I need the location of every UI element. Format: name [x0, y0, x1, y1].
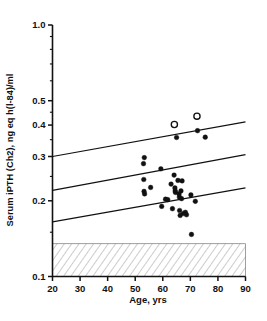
x-axis-title: Age, yrs: [129, 294, 167, 305]
x-tick-label: 60: [157, 283, 168, 294]
y-tick-label: 1.0: [32, 19, 45, 30]
x-tick-label: 50: [130, 283, 141, 294]
y-tick-label: 0.3: [32, 151, 45, 162]
band-rect: [53, 244, 246, 277]
data-point: [159, 204, 164, 209]
data-point: [165, 197, 170, 202]
data-point: [179, 196, 184, 201]
data-point: [169, 182, 174, 187]
data-point: [142, 192, 147, 197]
regression-line: [53, 155, 246, 191]
y-tick-label: 0.2: [32, 195, 45, 206]
x-axis-ticks: 2030405060708090: [47, 277, 251, 294]
data-point: [174, 135, 179, 140]
data-points: [141, 113, 207, 237]
scatter-plot-figure: 1.00.50.40.30.20.1 2030405060708090 Age,…: [0, 0, 267, 321]
x-tick-label: 30: [75, 283, 86, 294]
data-point: [184, 212, 189, 217]
data-point: [141, 161, 146, 166]
normal-range-band: [53, 244, 246, 277]
x-tick-label: 90: [240, 283, 251, 294]
data-point: [170, 206, 175, 211]
data-point: [179, 189, 184, 194]
x-tick-label: 70: [185, 283, 196, 294]
x-tick-label: 80: [213, 283, 224, 294]
data-point: [180, 179, 185, 184]
y-tick-label: 0.5: [32, 95, 46, 106]
x-tick-label: 40: [102, 283, 113, 294]
data-point: [195, 128, 200, 133]
data-point: [148, 185, 153, 190]
data-point: [141, 177, 146, 182]
data-point: [189, 232, 194, 237]
data-point-open: [171, 121, 177, 127]
data-point: [193, 199, 198, 204]
data-point: [189, 193, 194, 198]
lower-confidence-line: [53, 188, 246, 222]
y-tick-label: 0.1: [32, 271, 46, 282]
y-axis-title: Serum iPTH (Ch2), ng eq h(l-84)/ml: [5, 74, 15, 227]
plot-canvas: 1.00.50.40.30.20.1 2030405060708090 Age,…: [0, 0, 267, 321]
data-point: [172, 173, 177, 178]
y-axis-ticks: 1.00.50.40.30.20.1: [32, 19, 52, 282]
upper-confidence-line: [53, 122, 246, 157]
x-tick-label: 20: [47, 283, 58, 294]
data-point: [159, 166, 164, 171]
regression-lines: [53, 122, 246, 222]
data-point-open: [194, 113, 200, 119]
data-point: [142, 155, 147, 160]
data-point: [203, 135, 208, 140]
y-tick-label: 0.4: [32, 119, 46, 130]
